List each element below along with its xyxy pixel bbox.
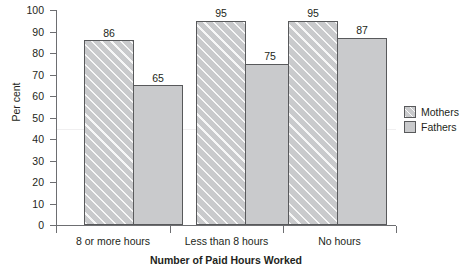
y-tick-label-30: 30 bbox=[10, 156, 44, 167]
x-category-label-1: Less than 8 hours bbox=[170, 236, 283, 247]
legend-label-mothers: Mothers bbox=[421, 107, 459, 118]
legend-swatch-mothers-icon bbox=[404, 106, 416, 118]
x-tick-sep-2 bbox=[283, 226, 284, 233]
chart-legend: Mothers Fathers bbox=[404, 106, 459, 133]
bar-label-mothers-0: 86 bbox=[103, 28, 115, 39]
y-axis-title: Per cent bbox=[10, 62, 22, 142]
y-tick-label-80: 80 bbox=[10, 48, 44, 59]
bar-mothers-8-or-more-hours: 86 bbox=[84, 40, 134, 225]
x-category-label-2: No hours bbox=[283, 236, 396, 247]
y-tick-label-90: 90 bbox=[10, 27, 44, 38]
x-tick-end bbox=[396, 226, 397, 233]
legend-item-fathers: Fathers bbox=[404, 121, 459, 133]
legend-item-mothers: Mothers bbox=[404, 106, 459, 118]
bar-label-mothers-1: 95 bbox=[215, 8, 227, 19]
bar-label-fathers-1: 75 bbox=[264, 51, 276, 62]
bar-fathers-no-hours: 87 bbox=[337, 38, 387, 225]
bar-label-fathers-2: 87 bbox=[356, 25, 368, 36]
bar-mothers-no-hours: 95 bbox=[288, 21, 338, 225]
x-category-label-0: 8 or more hours bbox=[56, 236, 170, 247]
y-tick-label-10: 10 bbox=[10, 199, 44, 210]
plot-area: 86 65 95 75 95 87 bbox=[56, 10, 396, 225]
legend-swatch-fathers-icon bbox=[404, 121, 416, 133]
bar-chart: 100 90 80 70 60 50 40 30 20 10 0 Per cen… bbox=[0, 0, 474, 277]
bar-mothers-less-than-8-hours: 95 bbox=[196, 21, 246, 225]
x-axis-title: Number of Paid Hours Worked bbox=[56, 254, 396, 266]
x-tick-start bbox=[56, 226, 57, 233]
y-tick-label-20: 20 bbox=[10, 177, 44, 188]
bar-label-mothers-2: 95 bbox=[307, 8, 319, 19]
bar-fathers-8-or-more-hours: 65 bbox=[133, 85, 183, 225]
y-tick-label-100: 100 bbox=[10, 5, 44, 16]
legend-label-fathers: Fathers bbox=[421, 122, 457, 133]
y-tick-label-0: 0 bbox=[10, 220, 44, 231]
x-tick-sep-1 bbox=[170, 226, 171, 233]
bar-label-fathers-0: 65 bbox=[152, 73, 164, 84]
x-axis-line bbox=[56, 225, 396, 226]
